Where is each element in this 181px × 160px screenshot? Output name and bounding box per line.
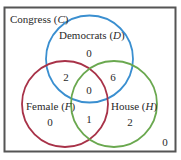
region-outside: 0: [162, 137, 168, 148]
house-symbol: H: [146, 100, 154, 112]
democrats-symbol: D: [113, 29, 121, 41]
female-label: Female (F): [26, 101, 75, 112]
female-label-text: Female: [26, 100, 58, 112]
house-label-text: House: [111, 100, 139, 112]
region-d-f-only: 2: [63, 72, 69, 83]
region-f-h-only: 1: [86, 114, 92, 125]
democrats-label-text: Democrats: [59, 29, 107, 41]
female-symbol: F: [65, 100, 72, 112]
democrats-label: Democrats (D): [59, 30, 125, 41]
region-d-f-h: 0: [86, 85, 92, 96]
universe-label-text: Congress: [10, 13, 51, 25]
region-d-only: 0: [86, 48, 92, 59]
universe-label: Congress (C): [10, 14, 68, 25]
house-label: House (H): [111, 101, 157, 112]
region-h-only: 2: [127, 117, 133, 128]
venn-diagram: Congress (C) Democrats (D) Female (F) Ho…: [0, 0, 181, 160]
region-f-only: 0: [47, 117, 53, 128]
universe-symbol: C: [57, 13, 64, 25]
region-d-h-only: 6: [110, 72, 116, 83]
